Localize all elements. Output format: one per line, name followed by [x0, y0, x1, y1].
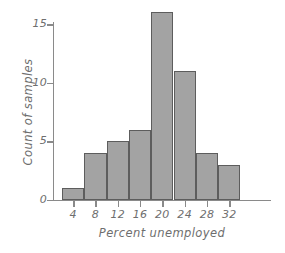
x-axis-tick [229, 201, 230, 207]
bar [62, 188, 84, 200]
y-axis-tick [47, 141, 53, 142]
plot-area: 051015 48121620242832 Percent unemployed… [0, 0, 285, 253]
bar [218, 165, 240, 200]
x-axis-tick [73, 201, 74, 207]
x-axis-tick [185, 201, 186, 207]
x-axis-tick [207, 201, 208, 207]
bar [107, 141, 129, 200]
y-axis-tick [47, 24, 53, 25]
x-axis-tick [162, 201, 163, 207]
bar [174, 71, 196, 200]
bar [129, 130, 151, 200]
x-axis-tick [118, 201, 119, 207]
x-axis-title: Percent unemployed [53, 226, 271, 240]
bar [151, 12, 173, 200]
x-axis-tick-label: 32 [214, 208, 244, 221]
x-axis-tick [95, 201, 96, 207]
y-axis-tick [47, 200, 53, 201]
y-axis-line [53, 22, 54, 201]
histogram-figure: 051015 48121620242832 Percent unemployed… [0, 0, 285, 253]
y-axis-tick [47, 83, 53, 84]
y-axis-title: Count of samples [21, 22, 35, 202]
x-axis-tick [140, 201, 141, 207]
bar [196, 153, 218, 200]
bar [84, 153, 106, 200]
